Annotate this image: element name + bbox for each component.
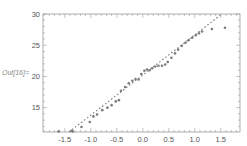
x-tick-label: -1.5 xyxy=(58,135,71,144)
data-point xyxy=(96,113,99,116)
data-point xyxy=(224,26,227,29)
data-point xyxy=(80,126,83,129)
data-point xyxy=(184,41,187,44)
data-point xyxy=(124,86,127,89)
data-point xyxy=(88,121,91,124)
data-point xyxy=(118,99,121,102)
data-point xyxy=(137,78,140,81)
y-tick-label: 20 xyxy=(32,72,40,81)
data-point xyxy=(161,65,164,68)
data-point xyxy=(174,52,177,55)
data-point xyxy=(195,34,198,37)
data-point xyxy=(101,109,104,112)
data-point xyxy=(187,39,190,42)
x-tick-label: 0.5 xyxy=(164,135,174,144)
data-point xyxy=(57,130,60,133)
data-point xyxy=(134,78,137,81)
data-point xyxy=(120,89,123,92)
data-point xyxy=(114,100,117,103)
data-point xyxy=(127,82,130,85)
data-point xyxy=(180,45,183,48)
data-point xyxy=(198,32,201,35)
data-point xyxy=(71,130,74,133)
data-point xyxy=(166,61,169,64)
data-point xyxy=(157,65,160,68)
data-points xyxy=(57,26,226,132)
x-tick-label: 1.5 xyxy=(216,135,226,144)
data-point xyxy=(92,115,95,118)
data-point xyxy=(191,36,194,39)
data-point xyxy=(151,67,154,70)
y-tick-label: 15 xyxy=(32,103,40,112)
data-point xyxy=(164,63,167,66)
data-point xyxy=(146,68,149,71)
data-point xyxy=(170,56,173,59)
data-point xyxy=(211,28,214,31)
data-point xyxy=(154,65,157,68)
x-tick-label: 0.0 xyxy=(138,135,148,144)
data-point xyxy=(177,48,180,51)
data-point xyxy=(143,70,146,73)
x-tick-label: -1.0 xyxy=(84,135,97,144)
data-point xyxy=(148,69,151,72)
data-point xyxy=(140,73,143,76)
x-tick-label: 1.0 xyxy=(190,135,200,144)
data-point xyxy=(131,80,134,83)
reference-dashed-line xyxy=(69,14,222,132)
x-tick-label: -0.5 xyxy=(110,135,123,144)
tick-labels: -1.5-1.0-0.50.00.51.01.515202530 xyxy=(32,10,226,145)
qq-plot: -1.5-1.0-0.50.00.51.01.515202530 xyxy=(0,0,247,146)
y-tick-label: 30 xyxy=(32,10,40,19)
y-tick-label: 25 xyxy=(32,41,40,50)
data-point xyxy=(110,104,113,107)
reference-line xyxy=(69,14,222,132)
data-point xyxy=(106,106,109,109)
data-point xyxy=(201,30,204,33)
